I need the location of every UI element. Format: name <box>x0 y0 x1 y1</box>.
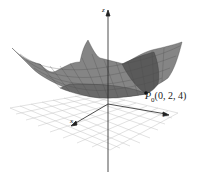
z-axis-label: z <box>102 6 105 14</box>
point-p0-label: P0(0, 2, 4) <box>145 90 186 104</box>
y-axis-label: y <box>163 110 166 118</box>
x-axis-label: x <box>70 117 73 125</box>
z-axis-arrow-icon <box>106 10 110 16</box>
point-coords: (0, 2, 4) <box>155 90 187 101</box>
surface-plot-svg <box>0 0 201 175</box>
surface-plot-figure: z x y P0(0, 2, 4) <box>0 0 201 175</box>
